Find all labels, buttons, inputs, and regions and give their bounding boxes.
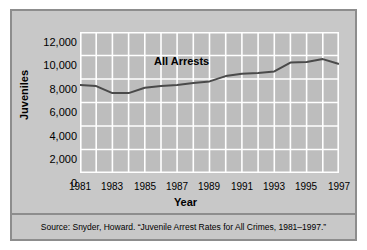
x-tick-1995: 1995 [289,181,323,192]
x-axis-title: Year [12,196,359,208]
y-tick-6000: 6,000 [21,107,77,118]
plot-area [80,32,339,173]
x-tick-1983: 1983 [95,181,129,192]
x-tick-1991: 1991 [225,181,259,192]
x-tick-1981: 1981 [63,181,97,192]
chart-figure: Juveniles 12,000 10,000 8,000 6,000 4,00… [10,9,357,241]
x-tick-1985: 1985 [128,181,162,192]
x-tick-1993: 1993 [257,181,291,192]
chart-plot-region: Juveniles 12,000 10,000 8,000 6,000 4,00… [12,11,355,213]
y-tick-8000: 8,000 [21,84,77,95]
y-tick-10000: 10,000 [21,60,77,71]
source-citation: Source: Snyder, Howard. “Juvenile Arrest… [12,222,355,232]
x-tick-1997: 1997 [322,181,356,192]
y-tick-12000: 12,000 [21,37,77,48]
y-tick-4000: 4,000 [21,131,77,142]
x-tick-1989: 1989 [192,181,226,192]
y-tick-2000: 2,000 [21,154,77,165]
series-label-all-arrests: All Arrests [154,55,209,67]
x-tick-1987: 1987 [160,181,194,192]
chart-svg [80,32,339,173]
source-bar: Source: Snyder, Howard. “Juvenile Arrest… [12,213,355,239]
